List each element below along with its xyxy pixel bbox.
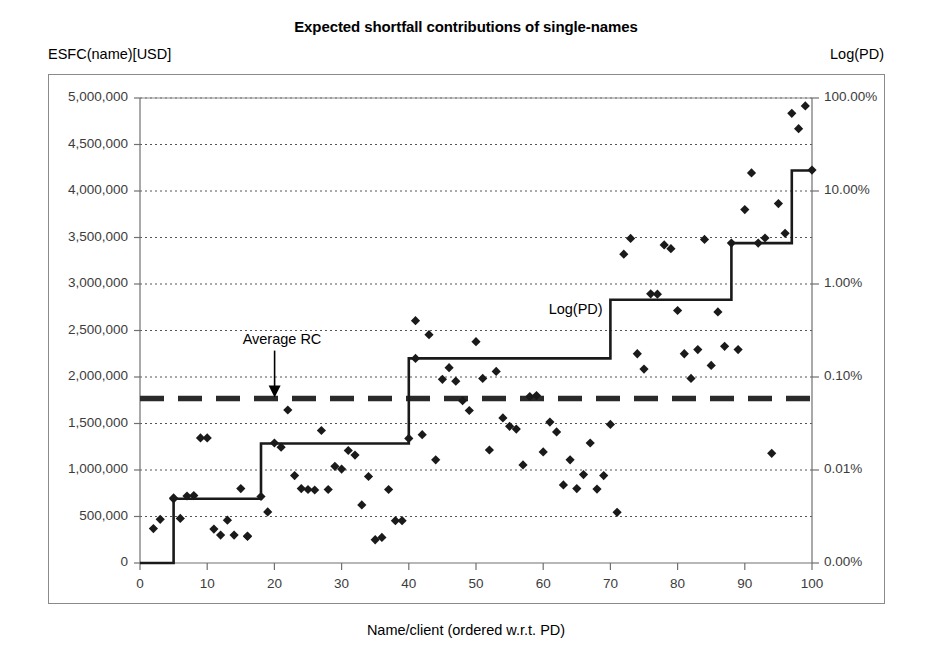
- y-axis-tick-label: 0: [40, 554, 128, 569]
- esfc-scatter-points: [149, 101, 817, 544]
- x-axis-tick-label: 50: [446, 576, 506, 591]
- y2-axis-tick-label: 10.00%: [824, 182, 870, 197]
- y2-axis-tick-label: 1.00%: [824, 275, 862, 290]
- y2-axis-tick-label: 0.10%: [824, 368, 862, 383]
- x-axis-tick-label: 30: [312, 576, 372, 591]
- x-axis-tick-label: 40: [379, 576, 439, 591]
- x-axis-tick-label: 80: [648, 576, 708, 591]
- y-axis-tick-label: 5,000,000: [40, 89, 128, 104]
- annotation-average-rc: Average RC: [243, 331, 322, 347]
- x-axis-tick-label: 20: [244, 576, 304, 591]
- x-axis-tick-label: 60: [513, 576, 573, 591]
- y-axis-tick-label: 3,500,000: [40, 229, 128, 244]
- y-axis-tick-label: 4,500,000: [40, 136, 128, 151]
- y2-axis-tick-label: 0.01%: [824, 461, 862, 476]
- x-axis-tick-label: 0: [110, 576, 170, 591]
- y-axis-tick-label: 3,000,000: [40, 275, 128, 290]
- y-axis-tick-label: 2,000,000: [40, 368, 128, 383]
- annotation-log-pd: Log(PD): [549, 301, 603, 317]
- x-axis-tick-label: 100: [782, 576, 842, 591]
- y2-axis-tick-label: 0.00%: [824, 554, 862, 569]
- x-axis-tick-label: 70: [580, 576, 640, 591]
- y-axis-tick-label: 1,500,000: [40, 415, 128, 430]
- y-axis-tick-label: 500,000: [40, 508, 128, 523]
- average-rc-arrow: [269, 351, 281, 398]
- chart-figure: Expected shortfall contributions of sing…: [0, 0, 932, 660]
- y-axis-tick-label: 1,000,000: [40, 461, 128, 476]
- y-axis-tick-label: 2,500,000: [40, 322, 128, 337]
- gridlines: [140, 98, 812, 517]
- plot-canvas: [0, 0, 932, 660]
- y-axis-tick-label: 4,000,000: [40, 182, 128, 197]
- y2-axis-tick-label: 100.00%: [824, 89, 877, 104]
- x-axis-tick-label: 10: [177, 576, 237, 591]
- x-axis-tick-label: 90: [715, 576, 775, 591]
